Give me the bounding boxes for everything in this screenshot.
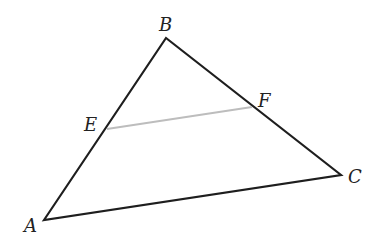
label-a: A	[22, 215, 37, 236]
triangle-diagram: B A C E F	[0, 0, 392, 245]
label-c: C	[348, 166, 362, 187]
segment-ef	[107, 107, 252, 129]
label-b: B	[158, 14, 172, 35]
label-f: F	[257, 90, 272, 111]
label-e: E	[83, 114, 97, 135]
